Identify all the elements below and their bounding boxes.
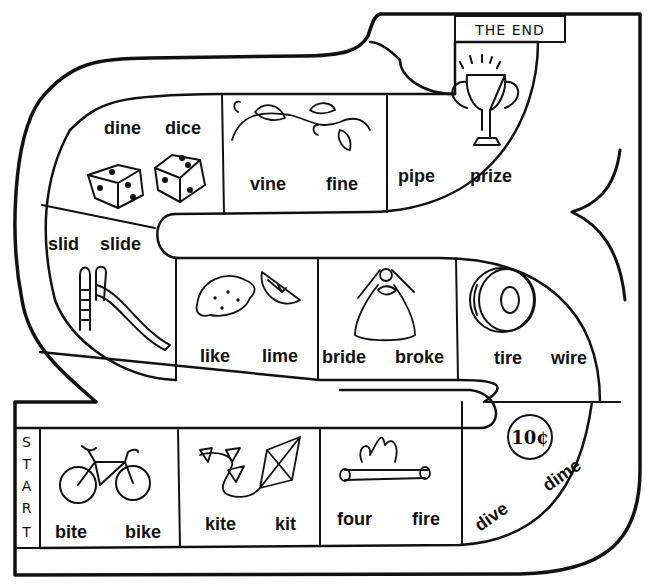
- playground-slide-icon: [80, 267, 170, 350]
- space-dime[interactable]: 10¢ dive dime: [471, 415, 585, 535]
- kite-icon: [200, 437, 300, 497]
- tire-icon: [470, 268, 535, 332]
- svg-text:tire: tire: [494, 348, 522, 368]
- svg-text:like: like: [200, 346, 230, 366]
- space-slide[interactable]: slid slide: [48, 234, 170, 350]
- svg-text:R: R: [22, 500, 33, 516]
- space-bike[interactable]: bite bike: [55, 446, 161, 542]
- game-board: S T A R T THE END dine dice: [0, 0, 660, 587]
- svg-text:fine: fine: [326, 174, 358, 194]
- svg-text:S: S: [22, 434, 32, 450]
- inner-bend: [157, 214, 178, 258]
- svg-text:fire: fire: [412, 509, 440, 529]
- svg-text:slide: slide: [100, 234, 141, 254]
- space-lime[interactable]: like lime: [197, 272, 300, 366]
- bicycle-icon: [60, 446, 150, 503]
- space-fire[interactable]: four fire: [337, 438, 440, 529]
- svg-text:pipe: pipe: [398, 166, 435, 186]
- svg-text:10¢: 10¢: [511, 427, 549, 448]
- space-prize[interactable]: pipe prize: [398, 55, 518, 186]
- space-bride[interactable]: bride broke: [322, 269, 444, 367]
- campfire-icon: [340, 438, 430, 481]
- svg-text:four: four: [337, 509, 372, 529]
- vine-icon: [232, 102, 370, 150]
- bottom-row-bottom-border: [40, 402, 592, 548]
- svg-text:bite: bite: [55, 522, 87, 542]
- dice-icon: [88, 155, 205, 208]
- space-tire[interactable]: tire wire: [470, 268, 587, 368]
- svg-text:bike: bike: [125, 522, 161, 542]
- space-dice[interactable]: dine dice: [88, 118, 205, 208]
- svg-text:broke: broke: [395, 347, 444, 367]
- start-label: S T A R T: [21, 434, 32, 540]
- board-right-notch: [572, 150, 625, 300]
- svg-text:dive: dive: [471, 498, 512, 535]
- end-label: THE END: [474, 22, 544, 38]
- svg-text:vine: vine: [250, 174, 286, 194]
- svg-text:prize: prize: [470, 166, 512, 186]
- svg-text:slid: slid: [48, 234, 79, 254]
- svg-text:dine: dine: [104, 118, 141, 138]
- svg-text:T: T: [21, 524, 32, 540]
- trophy-icon: [452, 55, 518, 145]
- svg-text:kite: kite: [205, 514, 236, 534]
- space-vine[interactable]: vine fine: [232, 102, 370, 194]
- svg-text:bride: bride: [322, 347, 366, 367]
- bride-icon: [355, 269, 415, 340]
- svg-text:wire: wire: [550, 348, 587, 368]
- space-kite[interactable]: kite kit: [200, 437, 300, 534]
- svg-text:lime: lime: [262, 346, 298, 366]
- svg-text:dice: dice: [165, 118, 201, 138]
- svg-text:kit: kit: [275, 514, 296, 534]
- svg-text:A: A: [22, 478, 33, 494]
- lemon-lime-icon: [197, 272, 300, 316]
- svg-text:T: T: [21, 456, 32, 472]
- dime-coin-icon: 10¢: [508, 415, 552, 459]
